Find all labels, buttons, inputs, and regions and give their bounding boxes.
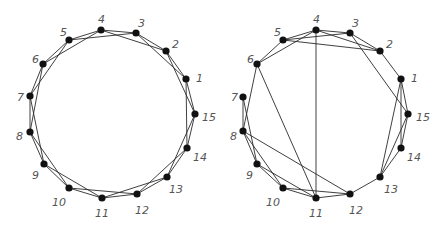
vertex-label-12: 12 — [349, 204, 363, 217]
vertex-13 — [376, 173, 383, 180]
graph-figure: 123456789101112131415 123456789101112131… — [0, 0, 443, 225]
right-graph: 123456789101112131415 — [230, 13, 430, 220]
vertex-label-8: 8 — [16, 130, 23, 143]
vertex-10 — [279, 184, 286, 191]
vertex-label-12: 12 — [135, 204, 149, 217]
edge-13-12 — [350, 177, 380, 194]
edge-15-13 — [380, 114, 408, 177]
edge-14-15 — [187, 114, 195, 148]
vertex-7 — [26, 92, 33, 99]
vertex-label-3: 3 — [352, 17, 359, 30]
vertex-10 — [65, 184, 72, 191]
vertex-14 — [397, 144, 404, 151]
vertex-4 — [97, 26, 104, 33]
vertex-6 — [253, 60, 260, 67]
vertex-label-6: 6 — [32, 53, 39, 66]
vertex-label-7: 7 — [231, 91, 238, 104]
vertex-label-15: 15 — [416, 111, 430, 124]
left-graph: 123456789101112131415 — [16, 13, 216, 220]
edge-15-14 — [401, 114, 408, 148]
vertex-label-9: 9 — [246, 169, 253, 182]
vertex-8 — [26, 128, 33, 135]
edge-4-6 — [43, 30, 101, 64]
vertex-label-7: 7 — [17, 91, 24, 104]
vertex-label-2: 2 — [172, 38, 179, 51]
left-graph-nodes — [26, 26, 198, 201]
vertex-label-11: 11 — [95, 207, 109, 220]
vertex-label-6: 6 — [247, 53, 254, 66]
vertex-6 — [39, 60, 46, 67]
vertex-14 — [183, 144, 190, 151]
vertex-8 — [239, 127, 246, 134]
edge-8-9 — [30, 132, 44, 164]
edge-5-6 — [257, 40, 283, 64]
vertex-7 — [239, 93, 246, 100]
vertex-3 — [132, 29, 139, 36]
vertex-13 — [163, 173, 170, 180]
vertex-label-3: 3 — [138, 17, 145, 30]
vertex-label-14: 14 — [193, 151, 207, 164]
edge-15-2 — [166, 51, 195, 114]
vertex-label-4: 4 — [313, 13, 320, 26]
vertex-9 — [253, 160, 260, 167]
edge-5-6 — [43, 40, 69, 64]
vertex-15 — [191, 110, 198, 117]
vertex-11 — [312, 194, 319, 201]
vertex-12 — [346, 190, 353, 197]
edge-3-15 — [350, 33, 408, 114]
edge-5-2 — [283, 40, 380, 51]
vertex-2 — [376, 47, 383, 54]
vertex-label-1: 1 — [411, 72, 418, 85]
edge-14-1 — [186, 79, 187, 148]
vertex-label-5: 5 — [60, 26, 67, 39]
right-graph-edges — [243, 30, 408, 198]
vertex-12 — [133, 190, 140, 197]
vertex-label-14: 14 — [407, 151, 421, 164]
vertex-15 — [404, 110, 411, 117]
edge-4-6 — [257, 30, 316, 64]
vertex-label-2: 2 — [386, 38, 393, 51]
edge-10-9 — [257, 164, 283, 188]
vertex-label-13: 13 — [169, 183, 183, 196]
edge-13-15 — [167, 114, 195, 177]
edge-1-2 — [166, 51, 186, 79]
vertex-label-10: 10 — [52, 196, 66, 209]
vertex-label-5: 5 — [274, 26, 281, 39]
vertex-4 — [312, 26, 319, 33]
right-graph-nodes — [239, 26, 411, 201]
vertex-label-9: 9 — [32, 169, 39, 182]
vertex-9 — [40, 160, 47, 167]
vertex-label-1: 1 — [196, 72, 203, 85]
left-graph-edges — [30, 30, 195, 198]
vertex-label-13: 13 — [384, 183, 398, 196]
vertex-label-4: 4 — [98, 13, 105, 26]
vertex-3 — [346, 29, 353, 36]
edge-12-11 — [316, 194, 350, 198]
vertex-1 — [397, 75, 404, 82]
left-graph-labels: 123456789101112131415 — [16, 13, 216, 220]
edge-2-1 — [380, 51, 401, 79]
vertex-11 — [98, 194, 105, 201]
edge-11-6 — [257, 64, 316, 198]
vertex-2 — [162, 47, 169, 54]
vertex-1 — [182, 75, 189, 82]
edge-9-11 — [44, 164, 102, 198]
edge-13-14 — [167, 148, 187, 177]
vertex-label-10: 10 — [266, 196, 280, 209]
vertex-label-8: 8 — [230, 130, 237, 143]
edge-2-3 — [136, 33, 166, 51]
vertex-label-11: 11 — [309, 207, 323, 220]
right-graph-labels: 123456789101112131415 — [230, 13, 430, 220]
vertex-label-15: 15 — [202, 111, 216, 124]
edge-5-7 — [30, 40, 69, 96]
